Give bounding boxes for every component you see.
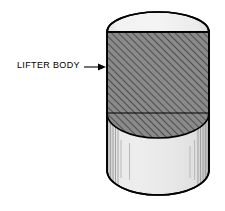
diagram-canvas: LIFTER BODY	[0, 0, 225, 211]
lifter-body-leader	[84, 64, 106, 71]
lifter-body-diagram	[0, 0, 225, 211]
leader-arrowhead-icon	[98, 64, 106, 71]
lifter-body-label: LIFTER BODY	[17, 60, 80, 71]
sectioned-lifter-body	[107, 32, 209, 138]
top-cap-surface	[107, 12, 209, 32]
top-cap	[107, 12, 209, 32]
section-hatch-fill	[107, 32, 209, 138]
